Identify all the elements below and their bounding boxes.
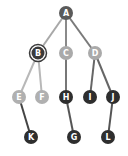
node-label: E	[16, 93, 21, 102]
node-label: H	[63, 93, 70, 102]
node-label: J	[111, 93, 115, 102]
tree-diagram: ABCDEFHIJKGL	[0, 0, 128, 156]
node-label: C	[63, 49, 69, 58]
node-l: L	[101, 130, 115, 144]
node-b: B	[30, 45, 47, 62]
node-a: A	[59, 6, 73, 20]
node-j: J	[106, 90, 120, 104]
node-label: F	[39, 93, 44, 102]
node-f: F	[35, 90, 49, 104]
node-label: A	[63, 9, 70, 18]
node-g: G	[67, 130, 81, 144]
node-h: H	[59, 90, 73, 104]
node-label: L	[105, 133, 110, 142]
edge-a-d	[66, 13, 95, 53]
node-label: D	[92, 49, 99, 58]
node-d: D	[88, 46, 102, 60]
node-c: C	[59, 46, 73, 60]
node-label: K	[28, 133, 35, 142]
node-label: I	[89, 93, 92, 102]
node-label: G	[71, 133, 78, 142]
node-i: I	[83, 90, 97, 104]
edges-group	[19, 13, 113, 137]
node-label: B	[35, 49, 41, 58]
node-k: K	[24, 130, 38, 144]
edge-d-j	[95, 53, 113, 97]
node-e: E	[12, 90, 26, 104]
